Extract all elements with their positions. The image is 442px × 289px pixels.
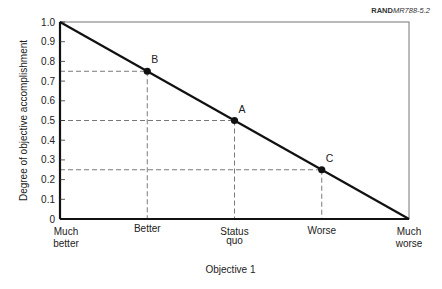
y-tick-label: 0.6 xyxy=(41,95,55,106)
y-axis-title: Degree of objective accomplishment xyxy=(18,40,29,201)
x-tick-label: Worse xyxy=(307,225,336,236)
y-tick-label: 0.9 xyxy=(41,36,55,47)
y-tick-label: 0.5 xyxy=(41,115,55,126)
y-tick-label: 1.0 xyxy=(41,17,55,28)
x-tick-label: Much xyxy=(54,226,78,237)
data-point-b xyxy=(144,68,151,75)
y-tick-label: 0.1 xyxy=(41,194,55,205)
y-tick-label: 0.4 xyxy=(41,135,55,146)
x-tick-label: better xyxy=(53,238,79,249)
data-point-c xyxy=(318,166,325,173)
point-label-c: C xyxy=(326,152,334,164)
y-tick-label: 0.7 xyxy=(41,76,55,87)
point-label-a: A xyxy=(239,103,246,115)
x-tick-label: quo xyxy=(226,235,243,246)
point-label-b: B xyxy=(151,53,158,65)
y-tick-label: 0 xyxy=(49,214,55,225)
data-point-a xyxy=(231,117,238,124)
line-chart: 00.10.20.30.40.50.60.70.80.91.0BACMuchbe… xyxy=(0,0,442,289)
x-tick-label: Much xyxy=(397,226,421,237)
x-axis-title: Objective 1 xyxy=(205,264,255,275)
y-tick-label: 0.2 xyxy=(41,174,55,185)
y-tick-label: 0.8 xyxy=(41,56,55,67)
x-tick-label: worse xyxy=(395,238,423,249)
y-tick-label: 0.3 xyxy=(41,154,55,165)
x-tick-label: Better xyxy=(134,223,161,234)
